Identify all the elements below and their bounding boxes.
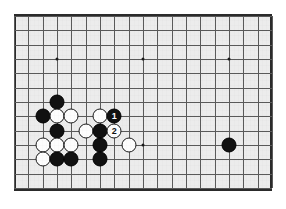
stone-black[interactable] xyxy=(49,94,64,109)
stone-black[interactable] xyxy=(92,137,107,152)
stone-black[interactable] xyxy=(64,152,79,167)
move-number-label: 2 xyxy=(112,126,117,135)
move-number-label: 1 xyxy=(112,112,117,121)
stone-black[interactable] xyxy=(92,123,107,138)
stone-black[interactable] xyxy=(49,123,64,138)
stone-black[interactable] xyxy=(92,152,107,167)
stone-white[interactable] xyxy=(78,123,93,138)
stone-black[interactable] xyxy=(221,137,236,152)
stone-white[interactable] xyxy=(92,109,107,124)
stone-white-move-2[interactable]: 2 xyxy=(107,123,122,138)
stone-white[interactable] xyxy=(49,137,64,152)
stone-black[interactable] xyxy=(49,152,64,167)
stones-layer: 12 xyxy=(0,0,286,209)
go-board-diagram: 12 xyxy=(0,0,286,209)
stone-white[interactable] xyxy=(64,109,79,124)
stone-white[interactable] xyxy=(35,152,50,167)
stone-white[interactable] xyxy=(35,137,50,152)
stone-white[interactable] xyxy=(64,137,79,152)
stone-black-move-1[interactable]: 1 xyxy=(107,109,122,124)
stone-white[interactable] xyxy=(121,137,136,152)
stone-white[interactable] xyxy=(49,109,64,124)
stone-black[interactable] xyxy=(35,109,50,124)
